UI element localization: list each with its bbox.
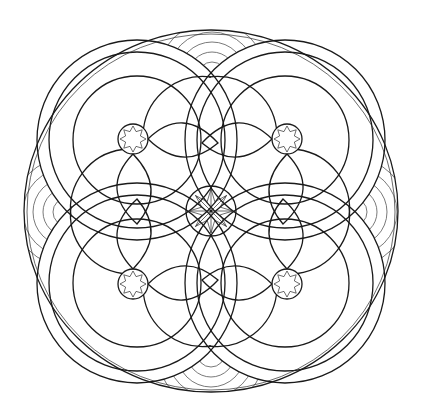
mandala-artwork bbox=[0, 0, 437, 413]
center-rosette bbox=[186, 186, 236, 236]
rosette-center-dot bbox=[209, 209, 212, 212]
